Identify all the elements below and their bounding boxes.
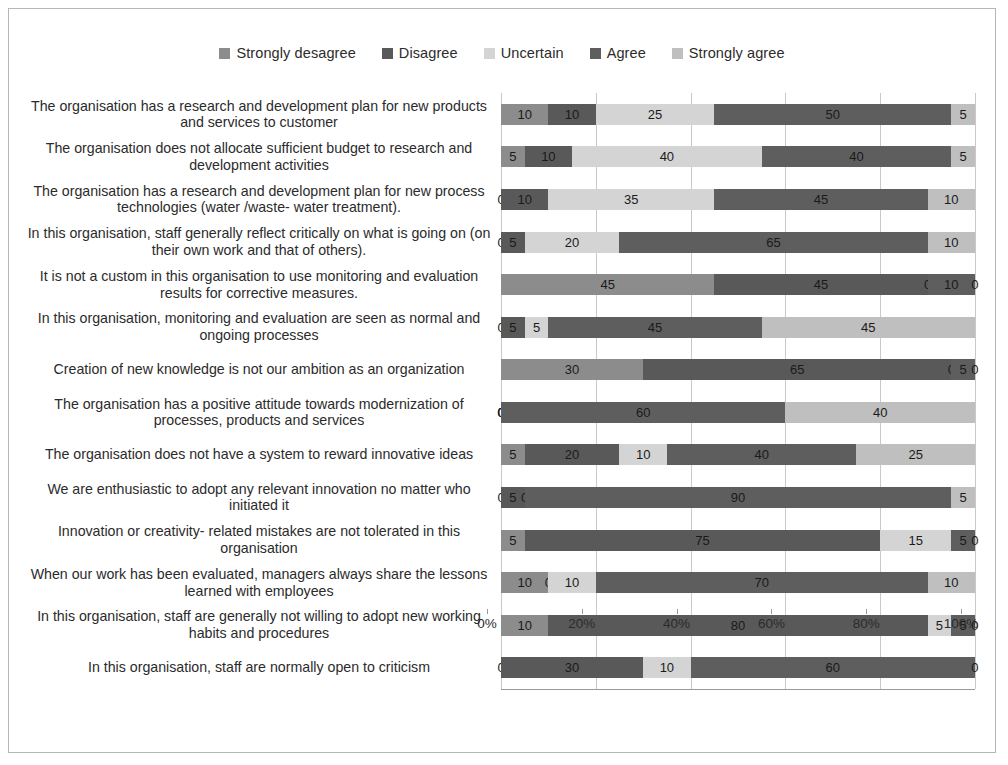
stacked-bar: 3065050	[501, 359, 975, 380]
bar-segment: 45	[548, 317, 761, 338]
bar-segment: 5	[501, 232, 525, 253]
bar-segment: 25	[596, 104, 715, 125]
bar-segment: 45	[714, 189, 927, 210]
bar-segment-value: 10	[517, 108, 531, 121]
gridline	[501, 93, 502, 689]
bar-segment-value: 25	[908, 448, 922, 461]
bar-segment-value: 65	[790, 363, 804, 376]
category-row: The organisation has a positive attitude…	[23, 391, 501, 434]
bar-segment-value: 0	[971, 278, 978, 291]
bar-segment-value: 10	[660, 661, 674, 674]
bar-segment-value: 45	[648, 321, 662, 334]
bar-segment-value: 70	[754, 576, 768, 589]
stacked-bar: 520104025	[501, 444, 975, 465]
chart-container: Strongly desagreeDisagreeUncertainAgreeS…	[8, 8, 996, 753]
x-axis-tick	[961, 609, 962, 614]
stacked-bar: 010354510	[501, 189, 975, 210]
legend-swatch-icon	[382, 48, 393, 59]
x-axis-tick	[866, 609, 867, 614]
category-label: Innovation or creativity- related mistak…	[23, 523, 501, 557]
bar-segment-value: 75	[695, 534, 709, 547]
stacked-bar: 0006040	[501, 402, 975, 423]
bar-segment-value: 40	[754, 448, 768, 461]
bar-segment-value: 20	[565, 236, 579, 249]
legend-item: Strongly desagree	[219, 45, 355, 61]
bar-segment: 5	[525, 317, 549, 338]
bar-segment-value: 30	[565, 661, 579, 674]
bar-segment: 50	[714, 104, 951, 125]
category-row: It is not a custom in this organisation …	[23, 263, 501, 306]
bar-segment: 35	[548, 189, 714, 210]
stacked-bar: 03010600	[501, 657, 975, 678]
x-axis-tick-label: 20%	[568, 616, 595, 631]
bar-segment: 10	[501, 189, 548, 210]
category-row: In this organisation, monitoring and eva…	[23, 306, 501, 349]
x-axis-tick-label: 100%	[944, 616, 979, 631]
bar-segment-value: 5	[509, 321, 516, 334]
category-label: It is not a custom in this organisation …	[23, 268, 501, 302]
bar-segment: 10	[525, 146, 572, 167]
bar-segment: 30	[501, 657, 643, 678]
bar-segment-value: 5	[960, 491, 967, 504]
bar-segment-value: 0	[971, 534, 978, 547]
legend-swatch-icon	[672, 48, 683, 59]
bar-segment-value: 35	[624, 193, 638, 206]
bar-segment-value: 5	[960, 363, 967, 376]
legend-swatch-icon	[484, 48, 495, 59]
bar-segment-value: 45	[814, 193, 828, 206]
bar-segment-value: 10	[517, 576, 531, 589]
bar-segment: 15	[880, 530, 951, 551]
category-label: In this organisation, monitoring and eva…	[23, 310, 501, 344]
legend-item: Disagree	[382, 45, 458, 61]
x-axis-tick-label: 40%	[663, 616, 690, 631]
bars-column: 1010255055104040501035451005206510454501…	[501, 93, 975, 689]
stacked-bar: 101025505	[501, 104, 975, 125]
category-row: The organisation has a research and deve…	[23, 93, 501, 136]
legend-item: Agree	[590, 45, 646, 61]
category-row: Creation of new knowledge is not our amb…	[23, 348, 501, 391]
gridline	[691, 93, 692, 689]
bar-segment: 20	[525, 232, 620, 253]
bar-segment-value: 45	[814, 278, 828, 291]
bar-segment-value: 10	[565, 108, 579, 121]
bar-segment: 40	[762, 146, 952, 167]
bar-segment: 5	[951, 104, 975, 125]
x-axis-tick	[677, 609, 678, 614]
legend-label: Agree	[607, 45, 646, 61]
x-axis-tick	[487, 609, 488, 614]
legend-swatch-icon	[590, 48, 601, 59]
chart-legend: Strongly desagreeDisagreeUncertainAgreeS…	[9, 45, 995, 61]
bar-segment: 10	[548, 104, 595, 125]
x-axis-tick-label: 80%	[853, 616, 880, 631]
stacked-bar: 05206510	[501, 232, 975, 253]
bar-segment-value: 10	[636, 448, 650, 461]
category-label: Creation of new knowledge is not our amb…	[23, 361, 501, 378]
stacked-bar: 100107010	[501, 572, 975, 593]
legend-item: Uncertain	[484, 45, 564, 61]
legend-label: Strongly desagree	[236, 45, 355, 61]
bar-segment-value: 10	[944, 236, 958, 249]
bar-segment: 60	[691, 657, 975, 678]
x-axis: 0%20%40%60%80%100%	[487, 609, 961, 635]
gridline	[785, 93, 786, 689]
bar-segment: 45	[501, 274, 714, 295]
bar-segment-value: 30	[565, 363, 579, 376]
bar-segment: 5	[951, 487, 975, 508]
bar-segment: 70	[596, 572, 928, 593]
bar-segment-value: 5	[959, 150, 966, 163]
stacked-bar: 45450100	[501, 274, 975, 295]
gridline	[975, 93, 976, 689]
category-row: We are enthusiastic to adopt any relevan…	[23, 476, 501, 519]
bar-segment: 40	[572, 146, 762, 167]
bar-segment: 10	[928, 572, 975, 593]
bar-segment-value: 5	[509, 534, 516, 547]
legend-label: Disagree	[399, 45, 458, 61]
bar-segment-value: 10	[565, 576, 579, 589]
bar-segment: 10	[501, 572, 548, 593]
category-row: The organisation does not have a system …	[23, 434, 501, 477]
bar-segment: 75	[525, 530, 881, 551]
bar-segment-value: 10	[944, 278, 958, 291]
gridline	[880, 93, 881, 689]
category-label: When our work has been evaluated, manage…	[23, 566, 501, 600]
category-row: The organisation has a research and deve…	[23, 178, 501, 221]
